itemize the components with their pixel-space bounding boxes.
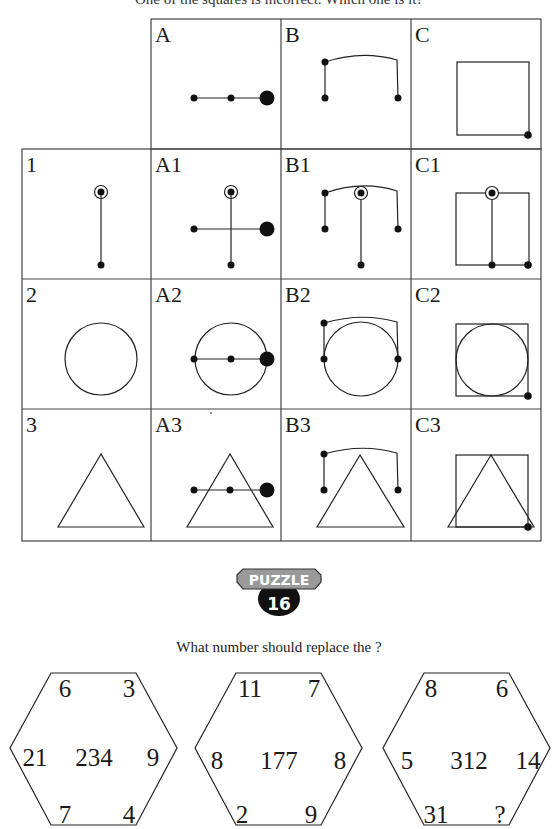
hexagon-2: 11 7 8 177 8 2 9: [193, 670, 365, 829]
hex3-left: 5: [401, 747, 414, 774]
hex1-center: 234: [75, 744, 113, 771]
circle-figure-2: [65, 323, 137, 395]
hex2-top-right: 7: [308, 675, 321, 702]
hex1-top-left: 6: [59, 675, 72, 702]
arch-figure-b: [322, 55, 402, 101]
square-figure-c: [457, 62, 532, 139]
hex1-bottom-left: 7: [59, 801, 72, 828]
hex2-right: 8: [334, 747, 347, 774]
col-header-b: B: [285, 22, 300, 47]
hex2-bottom-right: 9: [305, 801, 318, 828]
hexagon-3: 8 6 5 312 14 31 ?: [381, 670, 553, 829]
hex3-bottom-right: ?: [494, 801, 505, 828]
triangle-line-figure-a3: [187, 412, 275, 527]
hex2-bottom-left: 2: [236, 801, 249, 828]
cell-label-c2: C2: [415, 282, 441, 307]
triangle-arch-figure-b3: [317, 448, 404, 527]
cell-label-b2: B2: [285, 282, 311, 307]
puzzle-badge: PUZZLE 16: [229, 566, 329, 616]
circle-square-figure-c2: [456, 324, 532, 400]
cell-label-b1: B1: [285, 152, 311, 177]
triangle-square-figure-c3: [448, 455, 534, 531]
col-header-a: A: [155, 22, 171, 47]
col-header-c: C: [415, 22, 430, 47]
arch-target-figure-b1: [322, 186, 402, 269]
hex1-right: 9: [147, 744, 160, 771]
question-text: What number should replace the ?: [0, 639, 558, 656]
row-header-3: 3: [26, 412, 37, 437]
hex3-right: 14: [516, 747, 542, 774]
target-line-figure-1: [95, 186, 108, 269]
cell-label-c3: C3: [415, 412, 441, 437]
row-header-1: 1: [26, 152, 37, 177]
cell-label-c1: C1: [415, 152, 441, 177]
hex2-left: 8: [211, 747, 224, 774]
triangle-figure-3: [58, 454, 144, 527]
hex3-top-left: 8: [425, 675, 438, 702]
circle-arch-figure-b2: [321, 317, 402, 396]
hex1-left: 21: [23, 744, 48, 771]
circle-line-figure-a2: [191, 323, 275, 395]
badge-number: 16: [267, 594, 291, 614]
puzzle-grid: A B C 1 2 3 A1 B1 C1 A2 B2 C2 A3 B3 C3: [0, 0, 558, 560]
cell-label-b3: B3: [285, 412, 311, 437]
hex2-top-left: 11: [238, 675, 262, 702]
cross-figure-a1: [191, 186, 275, 269]
hex3-center: 312: [450, 747, 488, 774]
cell-label-a3: A3: [155, 412, 182, 437]
square-target-figure-c1: [456, 187, 532, 269]
hex1-top-right: 3: [123, 675, 136, 702]
cell-label-a1: A1: [155, 152, 182, 177]
line-dots-figure-a: [191, 91, 275, 106]
hex3-bottom-left: 31: [424, 801, 449, 828]
hex1-bottom-right: 4: [123, 801, 136, 828]
hex2-center: 177: [260, 747, 298, 774]
badge-label: PUZZLE: [249, 572, 309, 588]
hexagon-1: 6 3 21 234 9 7 4: [8, 670, 180, 829]
hex3-top-right: 6: [496, 675, 509, 702]
row-header-2: 2: [26, 282, 37, 307]
cell-label-a2: A2: [155, 282, 182, 307]
